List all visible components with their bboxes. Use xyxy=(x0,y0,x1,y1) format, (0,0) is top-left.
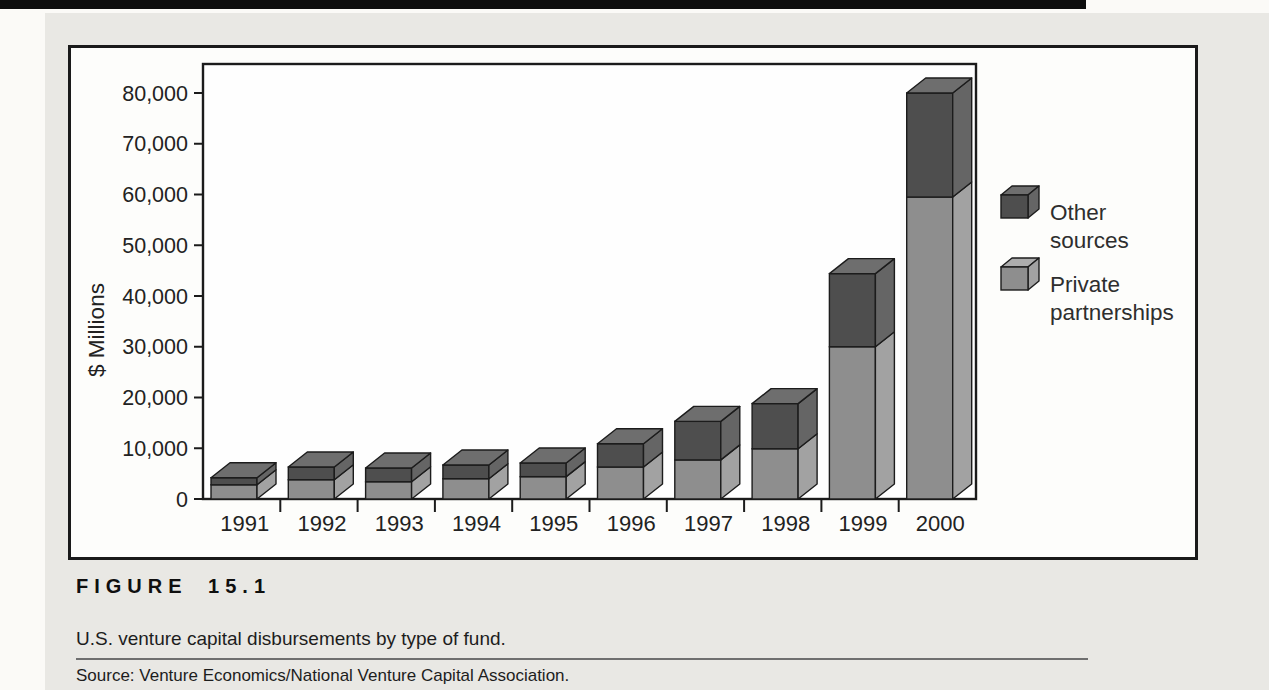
bar-1997 xyxy=(675,406,740,499)
x-tick-label: 1994 xyxy=(452,511,501,536)
bar-2000 xyxy=(907,78,972,499)
legend-item-other-sources: Othersources xyxy=(1001,186,1129,253)
legend-label: Private xyxy=(1050,272,1120,297)
y-tick-label: 20,000 xyxy=(122,386,188,410)
legend-label: partnerships xyxy=(1050,300,1174,325)
legend-item-private-partnerships: Privatepartnerships xyxy=(1001,258,1174,325)
bar-1995 xyxy=(520,448,585,499)
source-divider-rule xyxy=(76,658,1088,660)
legend-label: Other xyxy=(1050,200,1107,225)
x-tick-label: 1997 xyxy=(684,511,733,536)
bar-1992 xyxy=(288,452,353,499)
bar-1996 xyxy=(598,429,663,499)
x-tick-label: 1998 xyxy=(761,511,810,536)
y-tick-label: 10,000 xyxy=(122,437,188,461)
y-axis: 010,00020,00030,00040,00050,00060,00070,… xyxy=(84,82,203,512)
x-axis: 1991199219931994199519961997199819992000 xyxy=(220,499,965,536)
figure-caption: U.S. venture capital disbursements by ty… xyxy=(76,628,506,650)
x-tick-label: 1992 xyxy=(297,511,346,536)
legend-label: sources xyxy=(1050,228,1129,253)
bar-1998 xyxy=(752,389,817,499)
y-tick-label: 40,000 xyxy=(122,285,188,309)
y-tick-label: 0 xyxy=(176,488,188,512)
x-tick-label: 1996 xyxy=(607,511,656,536)
x-tick-label: 1995 xyxy=(529,511,578,536)
legend: OthersourcesPrivatepartnerships xyxy=(1001,186,1174,325)
x-tick-label: 1993 xyxy=(375,511,424,536)
bar-1999 xyxy=(829,259,894,499)
y-axis-title: $ Millions xyxy=(84,283,109,377)
bar-1993 xyxy=(366,453,431,499)
y-tick-label: 50,000 xyxy=(122,234,188,258)
x-tick-label: 1991 xyxy=(220,511,269,536)
figure-source: Source: Venture Economics/National Ventu… xyxy=(76,666,569,686)
y-tick-label: 60,000 xyxy=(122,183,188,207)
figure-label: FIGURE 15.1 xyxy=(76,575,271,598)
y-tick-label: 30,000 xyxy=(122,335,188,359)
bar-1994 xyxy=(443,450,508,499)
x-tick-label: 1999 xyxy=(839,511,888,536)
y-tick-label: 70,000 xyxy=(122,132,188,156)
x-tick-label: 2000 xyxy=(916,511,965,536)
y-tick-label: 80,000 xyxy=(122,82,188,106)
